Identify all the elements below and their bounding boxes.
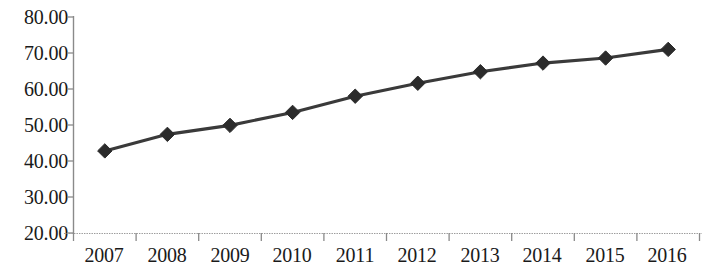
x-axis-tick-labels: 2007 2008 2009 2010 2011 2012 2013 2014 … — [0, 0, 704, 271]
line-chart: 80.00 70.00 60.00 50.00 40.00 30.00 20.0… — [0, 0, 704, 271]
x-axis-tick-label: 2016 — [629, 245, 704, 265]
